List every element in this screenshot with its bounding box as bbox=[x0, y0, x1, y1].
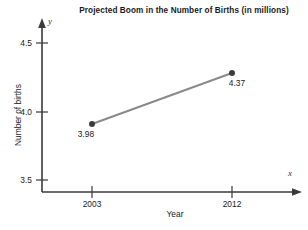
data-point-2012 bbox=[229, 70, 235, 76]
y-tick-label-3-5: 3.5 bbox=[6, 175, 32, 185]
chart-figure: Projected Boom in the Number of Births (… bbox=[0, 0, 308, 230]
data-point-label-2003: 3.98 bbox=[66, 129, 106, 139]
x-axis-title: Year bbox=[115, 209, 235, 219]
x-tick-label-2003: 2003 bbox=[72, 199, 112, 209]
x-tick-label-2012: 2012 bbox=[212, 199, 252, 209]
data-line-segment bbox=[92, 73, 232, 124]
data-point-2003 bbox=[89, 121, 95, 127]
data-point-label-2012: 4.37 bbox=[217, 78, 257, 88]
x-axis-variable-letter: x bbox=[288, 168, 292, 178]
chart-title: Projected Boom in the Number of Births (… bbox=[62, 6, 306, 16]
y-axis-title: Number of births bbox=[13, 60, 23, 170]
y-axis-variable-letter: y bbox=[48, 16, 52, 26]
y-tick-label-4-5: 4.5 bbox=[6, 38, 32, 48]
x-axis-arrowhead bbox=[292, 188, 302, 196]
chart-plot-area bbox=[0, 0, 308, 230]
y-axis-arrowhead bbox=[38, 18, 46, 28]
